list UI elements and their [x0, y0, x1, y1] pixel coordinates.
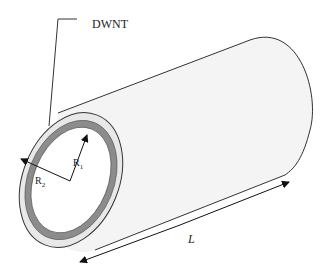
- dwnt-diagram: R1 R2 DWNT L: [0, 0, 327, 279]
- length-label: L: [187, 232, 195, 246]
- dwnt-label: DWNT: [92, 17, 129, 31]
